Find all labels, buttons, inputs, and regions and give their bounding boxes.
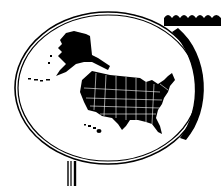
alaska bbox=[56, 31, 110, 76]
hawaii bbox=[84, 124, 102, 133]
wavy-banner bbox=[164, 15, 221, 26]
stem bbox=[68, 161, 75, 186]
us-map-illustration bbox=[0, 0, 221, 186]
oval-shadow bbox=[172, 28, 204, 140]
aleutian-islands bbox=[28, 55, 52, 82]
